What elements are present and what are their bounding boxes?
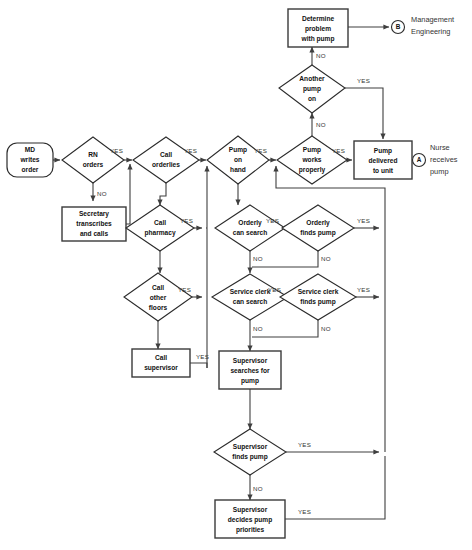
supervisor-searches-label-1: Supervisor [233,357,268,365]
another-pump-on-label-3: on [308,95,316,102]
supervisor-searches-label-3: pump [241,377,259,385]
node-determine-problem-with-pump[interactable]: Determine problem with pump [288,9,348,47]
node-call-pharmacy[interactable]: Call pharmacy [126,205,194,251]
node-another-pump-on[interactable]: Another pump on [279,65,345,113]
call-orderlies-label-1: Call [160,151,172,158]
service-clerk-finds-pump-label-1: Service clerk [298,288,339,295]
supervisor-finds-pump-label-2: finds pump [232,453,268,461]
rn-orders-label-2: orders [83,161,104,168]
edge-label-orderly-can-search-no: NO [253,255,263,262]
supervisor-decides-label-1: Supervisor [233,506,268,514]
secretary-label-2: transcribes [76,220,112,227]
pump-works-properly-label-2: works [301,156,321,163]
pump-delivered-label-3: to unit [373,167,394,174]
connector-b-label: B [396,23,401,30]
service-clerk-can-search-label-2: can search [233,298,267,305]
edge-label-other-floors-yes: YES [178,286,191,293]
node-call-orderlies[interactable]: Call orderlies [133,137,199,183]
edge-label-another-pump-no: NO [316,52,326,59]
call-other-floors-label-2: other [150,294,167,301]
orderly-finds-pump-label-2: finds pump [300,229,336,237]
node-orderly-finds-pump[interactable]: Orderly finds pump [282,205,354,251]
node-pump-delivered-to-unit[interactable]: Pump delivered to unit [354,141,412,179]
edge-label-supervisor-call-yes: YES [196,353,209,360]
connector-a[interactable]: A [413,154,426,167]
node-md-writes-order[interactable]: MD writes order [7,143,53,177]
management-engineering-line2: Engineering [411,27,450,36]
management-engineering-line1: Management [411,15,454,24]
call-other-floors-label-1: Call [152,284,164,291]
edge-supervisor-call-yes [190,363,207,368]
edge-label-pump-on-hand-yes: YES [254,147,267,154]
edge-orderlies-no [160,183,166,205]
edge-label-clerk-can-search-yes: YES [268,286,281,293]
edge-label-orderlies-yes: YES [184,147,197,154]
orderly-can-search-label-1: Orderly [238,219,262,227]
pump-delivered-label-2: delivered [369,157,398,164]
pump-on-hand-label-1: Pump [229,146,247,154]
node-orderly-can-search[interactable]: Orderly can search [215,205,285,251]
call-pharmacy-label-1: Call [154,219,166,226]
call-supervisor-label-1: Call [155,354,167,361]
supervisor-searches-label-2: searches for [230,367,270,374]
orderly-can-search-label-2: can search [233,229,267,236]
md-writes-order-label-1: MD [25,146,35,153]
node-supervisor-searches-for-pump[interactable]: Supervisor searches for pump [219,351,281,389]
node-service-clerk-can-search[interactable]: Service clerk can search [212,274,288,320]
edge-label-rn-no: NO [97,190,107,197]
rn-orders-label-1: RN [88,151,98,158]
edge-label-pump-works-yes: YES [332,147,345,154]
secretary-label-3: and calls [80,230,109,237]
flowchart-canvas: MD writes order RN orders Secretary tran… [0,0,472,550]
node-service-clerk-finds-pump[interactable]: Service clerk finds pump [280,274,356,320]
node-rn-orders[interactable]: RN orders [62,137,124,183]
pump-delivered-label-1: Pump [374,147,392,155]
call-other-floors-label-3: floors [149,304,168,311]
determine-problem-label-3: with pump [301,35,335,43]
node-supervisor-decides-pump-priorities[interactable]: Supervisor decides pump priorities [215,500,285,538]
edge-label-pharmacy-yes: YES [180,217,193,224]
supervisor-decides-label-3: priorities [236,526,265,534]
another-pump-on-label-1: Another [299,75,325,82]
edge-label-supervisor-decides-yes: YES [298,508,311,515]
supervisor-decides-label-2: decides pump [228,516,272,524]
supervisor-finds-pump-label-1: Supervisor [233,443,268,451]
determine-problem-label-2: problem [305,25,331,33]
node-pump-works-properly[interactable]: Pump works properly [277,136,347,184]
edge-label-orderly-finds-yes: YES [357,217,370,224]
outside-label-management-engineering: Management Engineering [411,15,454,36]
edge-label-another-pump-yes: YES [357,77,370,84]
nurse-receives-line2: receives [430,155,458,164]
node-supervisor-finds-pump[interactable]: Supervisor finds pump [214,429,286,475]
edge-label-clerk-can-search-no: NO [253,325,263,332]
edge-label-supervisor-finds-no: NO [253,485,263,492]
node-secretary-transcribes[interactable]: Secretary transcribes and calls [62,207,126,241]
pump-works-properly-label-1: Pump [303,146,321,154]
call-supervisor-label-2: supervisor [144,364,178,372]
orderly-finds-pump-label-1: Orderly [306,219,330,227]
edge-label-clerk-finds-yes: YES [357,286,370,293]
another-pump-on-label-2: pump [303,85,321,93]
node-call-supervisor[interactable]: Call supervisor [132,349,190,377]
nurse-receives-line3: pump [430,167,449,176]
service-clerk-can-search-label-1: Service clerk [230,288,271,295]
edge-label-clerk-finds-no: NO [321,325,331,332]
secretary-label-1: Secretary [79,210,109,218]
call-orderlies-label-2: orderlies [152,161,180,168]
node-call-other-floors[interactable]: Call other floors [124,273,192,321]
edge-label-rn-yes: YES [110,147,123,154]
pump-works-properly-label-3: properly [299,166,326,174]
md-writes-order-label-2: writes [19,156,39,163]
service-clerk-finds-pump-label-2: finds pump [300,298,336,306]
connector-a-label: A [417,156,422,163]
nurse-receives-line1: Nurse [430,143,450,152]
connector-b[interactable]: B [392,21,405,34]
edge-label-orderly-finds-no: NO [321,255,331,262]
edge-label-pump-works-no: NO [316,121,326,128]
pump-on-hand-label-3: hand [230,166,246,173]
edge-label-orderly-can-search-yes: YES [266,217,279,224]
node-pump-on-hand[interactable]: Pump on hand [207,136,269,184]
outside-label-nurse-receives-pump: Nurse receives pump [430,143,458,176]
md-writes-order-label-3: order [22,166,39,173]
call-pharmacy-label-2: pharmacy [144,229,175,237]
